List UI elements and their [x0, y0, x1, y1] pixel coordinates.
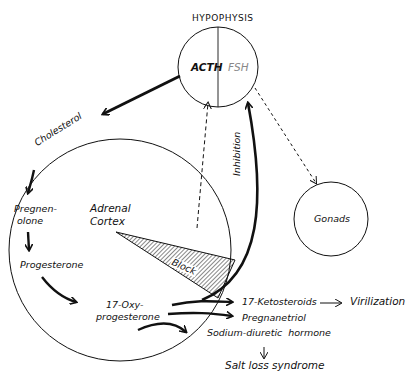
salt-loss-label: Salt loss syndrome: [225, 360, 325, 371]
progesterone-to-oxyprogesterone-arrow: [42, 277, 76, 302]
fsh-label: FSH: [228, 62, 249, 73]
acth-label: ACTH: [191, 62, 222, 73]
adrenal-hypophysis-diagram: HYPOPHYSIS ACTH FSH Cholesterol Pregnen-…: [0, 0, 415, 378]
pregnenolone-label-1: Pregnen-: [14, 204, 57, 214]
inhibition-label: Inhibition: [232, 132, 242, 176]
gonads-label: Gonads: [314, 214, 350, 224]
dashed-feedback-arrow: [197, 103, 208, 228]
adrenal-label-1: Adrenal: [90, 203, 131, 214]
pregnenolone-label-2: olone: [17, 216, 43, 226]
to-pregnanetriol-arrow: [168, 313, 232, 316]
fsh-to-gonads-arrow: [255, 88, 316, 183]
virilization-label: Virilization: [350, 296, 405, 307]
pregnenolone-to-progesterone-arrow: [28, 232, 29, 250]
diagram-graphics: [0, 0, 415, 378]
pregnanetriol-label: Pregnanetriol: [242, 313, 306, 323]
to-sodium-diuretic-arrow: [138, 323, 186, 332]
acth-to-adrenal-arrow: [103, 76, 180, 114]
oxyprogesterone-label-1: 17-Oxy-: [106, 300, 143, 310]
to-ketosteroids-arrow: [172, 301, 232, 305]
sodium-diuretic-label: Sodium-diuretic hormone: [207, 328, 331, 338]
adrenal-label-2: Cortex: [90, 216, 125, 227]
ketosteroids-label: 17-Ketosteroids: [242, 297, 317, 307]
oxyprogesterone-label-2: progesterone: [96, 312, 160, 322]
adrenal-cortex-node: [9, 139, 231, 361]
progesterone-label: Progesterone: [20, 260, 83, 270]
hypophysis-title: HYPOPHYSIS: [192, 14, 254, 23]
